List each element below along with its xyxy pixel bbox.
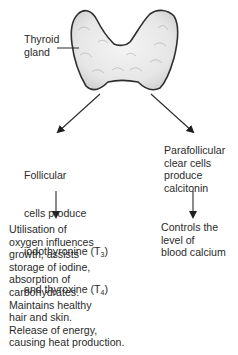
parafollicular-cells-node: Parafollicular clear cells produce calci…	[164, 144, 225, 194]
arrow-to-follicular	[58, 94, 100, 132]
parafollicular-effects-node: Controls the level of blood calcium	[161, 221, 226, 259]
arrow-to-parafollicular	[151, 94, 193, 132]
thyroid-gland-icon	[71, 10, 178, 89]
thyroid-gland-label: Thyroid gland	[24, 33, 59, 58]
follicular-effects-node: Utilisation of oxygen influences growth,…	[9, 223, 124, 349]
follicular-line-2: cells produce	[24, 207, 108, 220]
thyroid-function-diagram: Thyroid gland Follicular cells produce i…	[0, 0, 238, 355]
follicular-line-1: Follicular	[24, 169, 108, 182]
